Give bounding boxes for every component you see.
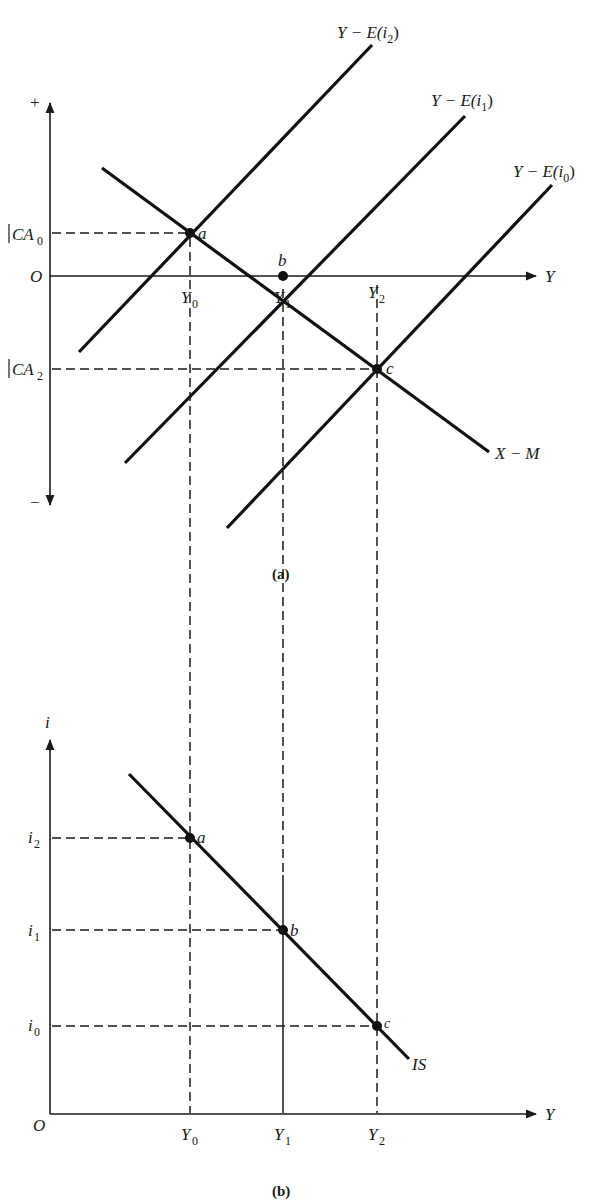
y-minus-e-i0-line	[227, 185, 552, 528]
panel-a: + − O Y CA 0 CA 2 Y 0 Y 1 Y 2	[9, 23, 575, 583]
point-b-label-top: b	[278, 251, 287, 270]
ca0-tick: CA 0	[9, 224, 43, 248]
svg-text:i: i	[28, 921, 33, 940]
svg-text:0: 0	[192, 297, 198, 311]
point-c-bottom	[372, 1021, 382, 1031]
x-axis-label-a: Y	[545, 267, 556, 286]
point-a-label-top: a	[198, 224, 207, 243]
label-x-minus-m: X − M	[494, 444, 540, 463]
panel-b: i O Y i 2 i 1 i 0 Y 0 Y 1 Y 2	[28, 713, 556, 1200]
y0-tick-b: Y 0	[181, 1125, 198, 1148]
is-curve-label: IS	[411, 1055, 427, 1074]
is-curve-derivation-diagram: + − O Y CA 0 CA 2 Y 0 Y 1 Y 2	[0, 0, 603, 1202]
point-b-top	[278, 271, 288, 281]
panel-b-caption: (b)	[272, 1183, 290, 1200]
y1-tick-b: Y 1	[274, 1125, 291, 1148]
i1-tick: i 1	[28, 921, 40, 944]
label-y-e-i2: Y − E(i2)	[337, 23, 399, 46]
svg-text:Y: Y	[181, 1125, 192, 1144]
point-c-label-top: c	[386, 359, 394, 378]
label-y-e-i1: Y − E(i1)	[431, 91, 493, 114]
i0-tick: i 0	[28, 1016, 40, 1039]
point-a-bottom	[185, 833, 195, 843]
svg-text:1: 1	[34, 930, 40, 944]
x-minus-m-line	[102, 168, 489, 452]
svg-text:0: 0	[192, 1134, 198, 1148]
point-b-label-bottom: b	[290, 921, 299, 940]
svg-text:Y: Y	[274, 1125, 285, 1144]
y-minus-e-i1-line	[125, 116, 465, 463]
y-axis-label-i: i	[45, 713, 50, 732]
svg-text:2: 2	[34, 837, 40, 851]
x-axis-label-b: Y	[545, 1105, 556, 1124]
svg-text:2: 2	[37, 369, 43, 383]
svg-text:2: 2	[379, 292, 385, 306]
point-a-top	[185, 228, 195, 238]
svg-text:i: i	[28, 828, 33, 847]
plus-label: +	[30, 93, 40, 112]
is-curve	[129, 774, 409, 1059]
label-y-e-i0: Y − E(i0)	[513, 162, 575, 185]
svg-text:i: i	[28, 1016, 33, 1035]
svg-text:0: 0	[34, 1025, 40, 1039]
svg-text:1: 1	[285, 1134, 291, 1148]
panel-a-caption: (a)	[272, 566, 290, 583]
origin-label-a: O	[30, 267, 42, 286]
svg-text:2: 2	[379, 1134, 385, 1148]
point-c-label-bottom: c	[384, 1016, 391, 1031]
svg-text:0: 0	[37, 234, 43, 248]
minus-label: −	[30, 493, 40, 512]
ca2-tick: CA 2	[9, 359, 43, 383]
origin-label-b: O	[33, 1116, 45, 1135]
point-a-label-bottom: a	[197, 828, 206, 847]
i2-tick: i 2	[28, 828, 40, 851]
y2-tick-b: Y 2	[368, 1125, 385, 1148]
svg-text:Y: Y	[368, 1125, 379, 1144]
point-b-bottom	[278, 925, 288, 935]
y-minus-e-i2-line	[79, 45, 372, 352]
svg-text:CA: CA	[12, 225, 34, 244]
svg-text:CA: CA	[12, 360, 34, 379]
